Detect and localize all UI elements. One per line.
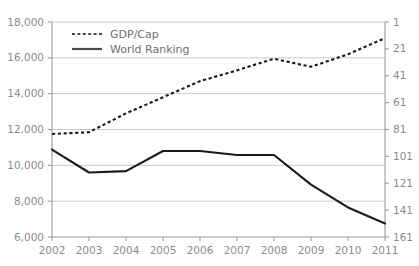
legend-label-gdp-cap: GDP/Cap [110, 28, 159, 41]
chart-legend: GDP/CapWorld Ranking [72, 28, 190, 56]
chart-container: 18,00016,00014,00012,00010,0008,0006,000… [0, 0, 419, 266]
x-axis-tick-label: 2008 [261, 244, 288, 256]
left-axis-tick-label: 6,000 [14, 231, 44, 243]
legend-label-world-ranking: World Ranking [110, 43, 190, 56]
series-line-gdp-cap [52, 38, 385, 134]
x-axis-tick-label: 2010 [335, 244, 362, 256]
x-axis-tick-label: 2002 [39, 244, 66, 256]
data-series [52, 38, 385, 223]
left-axis-tick-label: 14,000 [7, 87, 44, 99]
x-axis-ticks: 2002200320042005200620072008200920102011 [39, 237, 399, 256]
right-axis-tick-label: 21 [393, 42, 406, 54]
x-axis-tick-label: 2003 [76, 244, 103, 256]
right-axis-tick-label: 161 [393, 231, 413, 243]
x-axis-tick-label: 2004 [113, 244, 140, 256]
left-axis-tick-label: 12,000 [7, 123, 44, 135]
left-axis-tick-label: 8,000 [14, 195, 44, 207]
gridlines [52, 58, 385, 201]
left-axis-tick-label: 10,000 [7, 159, 44, 171]
right-axis-tick-label: 81 [393, 123, 406, 135]
right-axis-tick-label: 41 [393, 69, 406, 81]
right-axis-tick-label: 121 [393, 177, 413, 189]
right-axis-tick-label: 61 [393, 96, 406, 108]
left-axis-tick-label: 16,000 [7, 51, 44, 63]
x-axis-tick-label: 2009 [298, 244, 325, 256]
x-axis-tick-label: 2005 [150, 244, 177, 256]
x-axis-tick-label: 2007 [224, 244, 251, 256]
left-axis-tick-label: 18,000 [7, 16, 44, 28]
left-axis-ticks: 18,00016,00014,00012,00010,0008,0006,000 [7, 16, 52, 243]
right-axis-ticks: 121416181101121141161 [385, 16, 413, 243]
series-line-world-ranking [52, 150, 385, 224]
right-axis-tick-label: 101 [393, 150, 413, 162]
right-axis-tick-label: 1 [393, 16, 400, 28]
x-axis-tick-label: 2011 [372, 244, 399, 256]
line-chart: 18,00016,00014,00012,00010,0008,0006,000… [0, 0, 419, 266]
right-axis-tick-label: 141 [393, 204, 413, 216]
x-axis-tick-label: 2006 [187, 244, 214, 256]
